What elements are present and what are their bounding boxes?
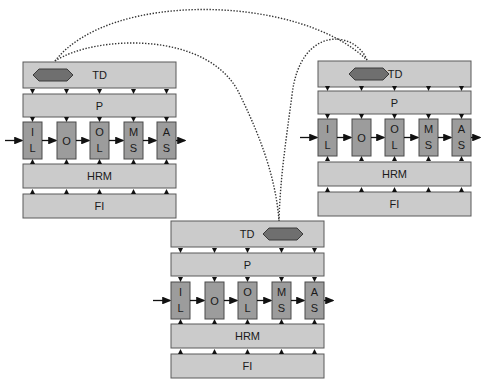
stage-label-bottom: S bbox=[425, 139, 432, 151]
connector-arrow-icon bbox=[459, 86, 464, 91]
connector-arrow-icon bbox=[325, 187, 330, 192]
connector-arrow-icon bbox=[164, 159, 169, 164]
connector-arrow-icon bbox=[279, 319, 284, 324]
connector-arrow-icon bbox=[64, 89, 69, 94]
stage-label-top: A bbox=[458, 123, 466, 135]
connector-arrow-icon bbox=[212, 277, 217, 282]
connector-arrow-icon bbox=[178, 248, 183, 253]
fi-label: FI bbox=[95, 200, 105, 212]
connector-arrow-icon bbox=[131, 117, 136, 122]
connector-arrow-icon bbox=[212, 248, 217, 253]
connector-arrow-icon bbox=[178, 349, 183, 354]
p-label: P bbox=[96, 100, 103, 112]
connector-arrow-icon bbox=[392, 187, 397, 192]
connector-arrow-icon bbox=[426, 156, 431, 161]
token-icon bbox=[33, 69, 73, 81]
stage-label-bottom: S bbox=[458, 139, 465, 151]
connector-arrow-icon bbox=[30, 159, 35, 164]
connector-arrow-icon bbox=[312, 277, 317, 282]
connector-arrow-icon bbox=[459, 114, 464, 119]
nodes: TDPHRMFIILOOLMSASTDPHRMFIILOOLMSASTDPHRM… bbox=[5, 61, 480, 378]
connector-arrow-icon bbox=[131, 189, 136, 194]
connector-arrow-icon bbox=[325, 86, 330, 91]
connector-arrow-icon bbox=[30, 117, 35, 122]
token-icon bbox=[263, 228, 303, 240]
stage-label: O bbox=[62, 135, 71, 147]
p-label: P bbox=[391, 97, 398, 109]
connector-arrow-icon bbox=[359, 156, 364, 161]
td-label: TD bbox=[240, 228, 255, 240]
connector-arrow-icon bbox=[245, 349, 250, 354]
connector-arrow-icon bbox=[426, 187, 431, 192]
stage-label-bottom: L bbox=[29, 142, 35, 154]
connector-arrow-icon bbox=[359, 114, 364, 119]
stage-label-bottom: S bbox=[278, 302, 285, 314]
stage-label-top: I bbox=[326, 123, 329, 135]
connector-arrow-icon bbox=[392, 156, 397, 161]
stage-label: O bbox=[210, 295, 219, 307]
connector-arrow-icon bbox=[97, 117, 102, 122]
connector-arrow-icon bbox=[131, 159, 136, 164]
connector-arrow-icon bbox=[325, 156, 330, 161]
stage-label-bottom: L bbox=[324, 139, 330, 151]
connector-arrow-icon bbox=[325, 114, 330, 119]
token-icon bbox=[349, 68, 389, 80]
connector-arrow-icon bbox=[245, 248, 250, 253]
connector-arrow-icon bbox=[392, 114, 397, 119]
connector-arrow-icon bbox=[30, 89, 35, 94]
stage-label-top: A bbox=[311, 286, 319, 298]
connector-arrow-icon bbox=[64, 117, 69, 122]
connector-arrow-icon bbox=[212, 349, 217, 354]
connector-arrow-icon bbox=[245, 319, 250, 324]
connector-arrow-icon bbox=[64, 159, 69, 164]
distributed-pipeline-diagram: TDPHRMFIILOOLMSASTDPHRMFIILOOLMSASTDPHRM… bbox=[0, 0, 493, 388]
fi-label: FI bbox=[390, 198, 400, 210]
stage-label-bottom: L bbox=[391, 139, 397, 151]
connector-arrow-icon bbox=[97, 159, 102, 164]
connector-arrow-icon bbox=[279, 349, 284, 354]
stage-label-top: O bbox=[390, 123, 399, 135]
p-label: P bbox=[244, 259, 251, 271]
stage-label-top: M bbox=[277, 286, 286, 298]
td-label: TD bbox=[388, 68, 403, 80]
connector-arrow-icon bbox=[30, 189, 35, 194]
hrm-label: HRM bbox=[87, 170, 112, 182]
connector-arrow-icon bbox=[312, 319, 317, 324]
stage-label-top: M bbox=[129, 126, 138, 138]
connector-arrow-icon bbox=[164, 189, 169, 194]
connector-arrow-icon bbox=[312, 248, 317, 253]
stage-label-bottom: L bbox=[177, 302, 183, 314]
hrm-label: HRM bbox=[235, 330, 260, 342]
stage-label-top: O bbox=[95, 126, 104, 138]
connector-arrow-icon bbox=[97, 189, 102, 194]
stage-label-bottom: S bbox=[163, 142, 170, 154]
stage-label-top: M bbox=[424, 123, 433, 135]
stage-label-top: A bbox=[163, 126, 171, 138]
connector-arrow-icon bbox=[312, 349, 317, 354]
connector-arrow-icon bbox=[359, 86, 364, 91]
link-left-right bbox=[55, 9, 367, 61]
connector-arrow-icon bbox=[178, 277, 183, 282]
stage-label-bottom: S bbox=[130, 142, 137, 154]
connector-arrow-icon bbox=[131, 89, 136, 94]
connector-arrow-icon bbox=[279, 277, 284, 282]
connector-arrow-icon bbox=[164, 89, 169, 94]
connector-arrow-icon bbox=[212, 319, 217, 324]
node-right: TDPHRMFIILOOLMSAS bbox=[300, 61, 480, 216]
stage-label-bottom: S bbox=[311, 302, 318, 314]
connector-arrow-icon bbox=[459, 187, 464, 192]
connector-arrow-icon bbox=[426, 114, 431, 119]
stage-label-bottom: L bbox=[244, 302, 250, 314]
stage-label-bottom: L bbox=[96, 142, 102, 154]
connector-arrow-icon bbox=[178, 319, 183, 324]
stage-label-top: O bbox=[243, 286, 252, 298]
stage-label-top: I bbox=[179, 286, 182, 298]
connector-arrow-icon bbox=[426, 86, 431, 91]
stage-label: O bbox=[357, 132, 366, 144]
stage-label-top: I bbox=[31, 126, 34, 138]
node-left: TDPHRMFIILOOLMSAS bbox=[5, 62, 185, 218]
connector-arrow-icon bbox=[392, 86, 397, 91]
node-bottom: TDPHRMFIILOOLMSAS bbox=[153, 221, 333, 378]
hrm-label: HRM bbox=[382, 168, 407, 180]
connector-arrow-icon bbox=[279, 248, 284, 253]
